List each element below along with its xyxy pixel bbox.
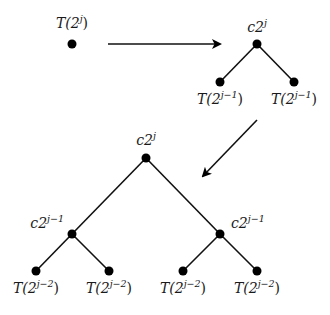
step2-tree: c2j c2j−1 c2j−1 T(2j−2) T(2j−2) T(2j−2) … [13,130,280,296]
expand-arrow-down-left [203,120,257,176]
step2-leaf-node [32,267,41,276]
step1-edge-right [257,44,294,82]
step1-edge-left [220,44,257,82]
step2-internal-label-right: c2j−1 [231,213,265,231]
step2-leaf-node [105,267,114,276]
step2-leaf-label: T(2j−2) [86,278,132,296]
step2-internal-label-left: c2j−1 [30,213,64,231]
initial-node [68,40,77,49]
step2-leaf-node [253,267,262,276]
step1-child-label-left: T(2j−1) [197,89,243,107]
step2-internal-node-right [216,230,225,239]
step2-leaf-label: T(2j−2) [160,278,206,296]
step1-root-label: c2j [247,17,267,35]
step2-leaf-node [179,267,188,276]
step1-child-label-right: T(2j−1) [271,89,317,107]
initial-node-label: T(2j) [56,13,88,31]
step2-root-label: c2j [136,130,156,148]
step2-root-node [142,154,151,163]
step1-child-node-right [290,78,299,87]
step2-edge [220,234,257,271]
step2-internal-node-left [68,230,77,239]
step2-edge [183,234,220,271]
step2-edge-root-left [72,158,146,234]
initial-node-group: T(2j) [56,13,88,49]
step1-root-node [253,40,262,49]
step2-leaf-label: T(2j−2) [234,278,280,296]
step1-child-node-left [216,78,225,87]
step2-edge [72,234,109,271]
step2-edge [36,234,72,271]
step1-tree: c2j T(2j−1) T(2j−1) [197,17,317,107]
recursion-tree-diagram: T(2j) c2j T(2j−1) T(2j−1) c2j c2j−1 c2j−… [0,0,330,315]
step2-leaf-label: T(2j−2) [13,278,59,296]
